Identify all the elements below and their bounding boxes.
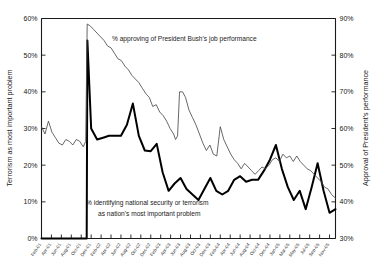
right-tick-label: 80%	[340, 52, 354, 59]
left-tick-label: 10%	[23, 198, 37, 205]
left-tick-label: 30%	[23, 125, 37, 132]
right-tick-label: 50%	[340, 162, 354, 169]
right-tick-label: 30%	[340, 235, 354, 242]
right-tick-label: 90%	[340, 15, 354, 22]
x-tick-label: Nov-05	[318, 242, 331, 257]
x-tick-label: May-05	[288, 242, 301, 258]
approval-series-annotation: % approving of President Bush's job perf…	[112, 35, 257, 43]
right-tick-label: 70%	[340, 88, 354, 95]
right-axis-title: Approval of President's performance	[361, 70, 370, 186]
left-tick-label: 60%	[23, 15, 37, 22]
terrorism-approval-line-chart: 0%10%20%30%40%50%60% 30%40%50%60%70%80%9…	[0, 0, 378, 275]
right-axis-ticks: 30%40%50%60%70%80%90%	[332, 15, 354, 242]
terrorism-series-annotation-line-2: as nation's most important problem	[98, 210, 201, 218]
right-tick-label: 40%	[340, 198, 354, 205]
left-tick-label: 40%	[23, 88, 37, 95]
left-tick-label: 50%	[23, 52, 37, 59]
right-tick-label: 60%	[340, 125, 354, 132]
chart-container: 0%10%20%30%40%50%60% 30%40%50%60%70%80%9…	[0, 0, 378, 275]
left-tick-label: 0%	[27, 235, 37, 242]
series-layer	[42, 24, 336, 239]
terrorism-series-annotation-line-1: % identifying national security or terro…	[86, 199, 209, 207]
left-axis-title: Terrorism as most important problem	[5, 69, 14, 186]
x-axis-tick-labels: Feb-01Apr-01Jun-01Aug-01Oct-01Dec-01Feb-…	[30, 242, 331, 258]
left-tick-label: 20%	[23, 162, 37, 169]
approval-series-line	[42, 24, 336, 198]
